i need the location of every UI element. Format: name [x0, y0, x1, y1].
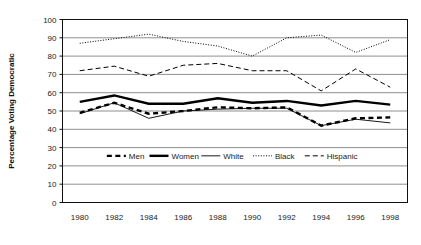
y-axis-title: Percentage Voting Democratic	[7, 53, 16, 169]
legend-label-women: Women	[172, 152, 199, 161]
x-tick-label-1982: 1982	[105, 213, 123, 222]
y-tick-label-50: 50	[48, 107, 57, 116]
y-tick-label-40: 40	[48, 125, 57, 134]
y-tick-label-20: 20	[48, 162, 57, 171]
x-tick-label-1990: 1990	[243, 213, 261, 222]
y-tick-label-60: 60	[48, 89, 57, 98]
chart-container: 0102030405060708090100 19801982198419861…	[0, 0, 421, 245]
x-tick-label-1986: 1986	[174, 213, 192, 222]
legend-label-white: White	[223, 152, 244, 161]
chart-background	[0, 0, 421, 245]
y-tick-label-90: 90	[48, 34, 57, 43]
x-tick-label-1996: 1996	[347, 213, 365, 222]
x-tick-label-1980: 1980	[71, 213, 89, 222]
legend-label-men: Men	[129, 152, 145, 161]
legend-label-black: Black	[275, 152, 296, 161]
x-tick-label-1992: 1992	[278, 213, 296, 222]
y-tick-label-30: 30	[48, 144, 57, 153]
y-tick-label-100: 100	[43, 16, 57, 25]
line-chart: 0102030405060708090100 19801982198419861…	[0, 0, 421, 245]
x-tick-label-1988: 1988	[209, 213, 227, 222]
legend-label-hispanic: Hispanic	[327, 152, 358, 161]
y-tick-label-0: 0	[52, 199, 57, 208]
x-tick-label-1994: 1994	[312, 213, 330, 222]
x-tick-label-1998: 1998	[381, 213, 399, 222]
x-tick-label-1984: 1984	[140, 213, 158, 222]
y-tick-label-70: 70	[48, 70, 57, 79]
y-tick-label-10: 10	[48, 180, 57, 189]
y-tick-label-80: 80	[48, 52, 57, 61]
